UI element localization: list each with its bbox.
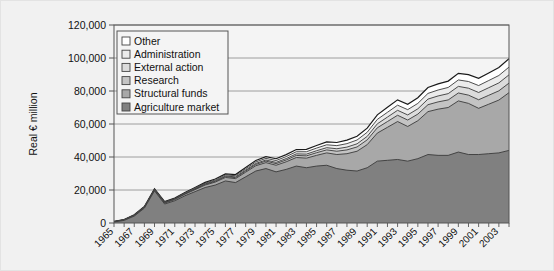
legend-swatch-administration: [122, 50, 130, 58]
legend-swatch-structural-funds: [122, 90, 130, 98]
x-tick-label: 1967: [112, 225, 136, 249]
legend-swatch-external-action: [122, 63, 130, 71]
x-tick-label: 1987: [315, 225, 339, 249]
y-axis-title: Real € million: [27, 92, 39, 155]
legend-swatch-other: [122, 37, 130, 45]
y-tick-label: 120,000: [68, 19, 106, 31]
x-tick-label: 1991: [355, 225, 379, 249]
legend-swatch-research: [122, 77, 130, 85]
y-tick-label: 80,000: [74, 85, 106, 97]
y-tick-label: 20,000: [74, 184, 106, 196]
y-tick-label: 100,000: [68, 52, 106, 64]
x-tick-label: 1983: [274, 225, 298, 249]
x-tick-label: 1999: [436, 225, 460, 249]
legend-swatch-agriculture-market: [122, 103, 130, 111]
x-tick-label: 1973: [173, 225, 197, 249]
x-tick-label: 2003: [477, 225, 501, 249]
x-tick-label: 1975: [193, 225, 217, 249]
x-tick-label: 1981: [254, 225, 278, 249]
area-chart: 020,00040,00060,00080,000100,000120,000 …: [1, 1, 554, 271]
legend-label-structural-funds: Structural funds: [134, 87, 208, 99]
legend-label-research: Research: [134, 74, 179, 86]
x-tick-label: 1985: [294, 225, 318, 249]
x-tick-label: 2001: [457, 225, 481, 249]
x-tick-label: 1977: [213, 225, 237, 249]
y-tick-label: 60,000: [74, 118, 106, 130]
legend-label-agriculture-market: Agriculture market: [134, 101, 219, 113]
x-tick-label: 1989: [335, 225, 359, 249]
legend-label-administration: Administration: [134, 48, 201, 60]
x-tick-label: 1997: [416, 225, 440, 249]
x-tick-label: 1995: [396, 225, 420, 249]
legend-label-external-action: External action: [134, 61, 204, 73]
x-tick-label: 1979: [234, 225, 258, 249]
x-tick-label: 1969: [132, 225, 156, 249]
y-axis-ticks: 020,00040,00060,00080,000100,000120,000: [68, 19, 114, 229]
legend-label-other: Other: [134, 35, 161, 47]
y-tick-label: 40,000: [74, 151, 106, 163]
x-tick-label: 1965: [92, 225, 116, 249]
x-tick-label: 1971: [153, 225, 177, 249]
figure-container: 020,00040,00060,00080,000100,000120,000 …: [0, 0, 554, 271]
x-tick-label: 1993: [375, 225, 399, 249]
x-axis-ticks: 1965196719691971197319751977197919811983…: [92, 223, 509, 249]
legend: OtherAdministrationExternal actionResear…: [117, 31, 228, 114]
